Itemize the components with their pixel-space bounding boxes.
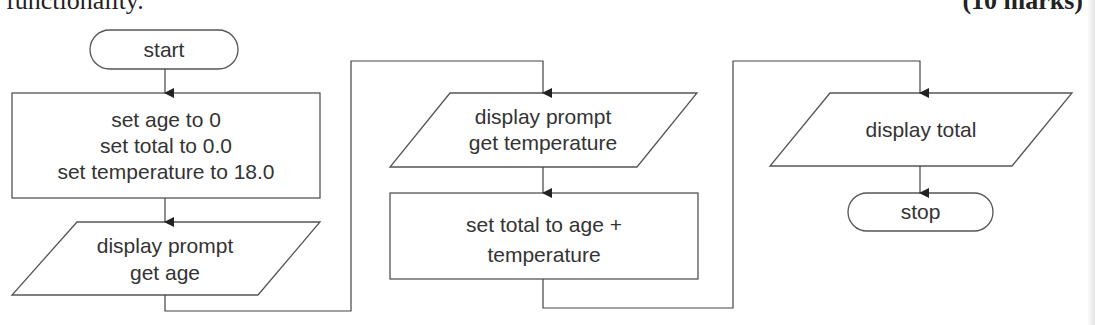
calc-line-1: set total to age + [390,210,698,240]
input-temperature-text: display prompt get temperature [418,104,668,156]
input-age-text: display prompt get age [40,232,290,286]
init-line-3: set temperature to 18.0 [12,159,320,185]
input-age-line-2: get age [40,259,290,286]
init-line-1: set age to 0 [12,107,320,133]
input-age-line-1: display prompt [40,232,290,259]
input-temp-line-2: get temperature [418,130,668,156]
stop-label: stop [848,199,993,224]
page-edge-shadow [1087,0,1095,325]
input-temp-line-1: display prompt [418,104,668,130]
init-box-text: set age to 0 set total to 0.0 set temper… [12,107,320,185]
output-total-text: display total [800,117,1042,142]
init-line-2: set total to 0.0 [12,133,320,159]
calc-box-text: set total to age + temperature [390,210,698,270]
calc-line-2: temperature [390,240,698,270]
start-label: start [90,37,238,62]
